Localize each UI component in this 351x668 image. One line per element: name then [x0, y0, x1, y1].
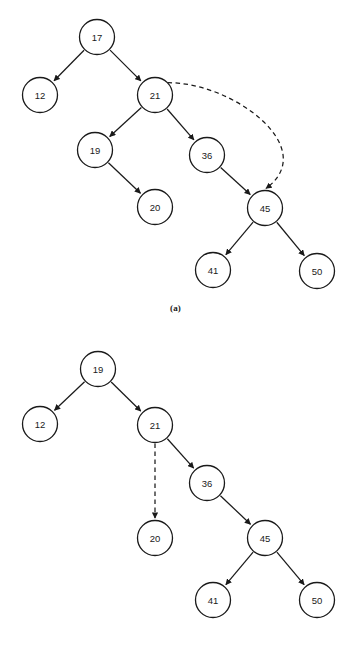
- tree-node-36[interactable]: 36: [190, 138, 225, 173]
- tree-node-19[interactable]: 19: [81, 352, 116, 387]
- tree-node-41[interactable]: 41: [196, 253, 231, 288]
- tree-node-label-19: 19: [90, 145, 101, 156]
- tree-node-19[interactable]: 19: [78, 133, 113, 168]
- tree-graph-a: 171221193620454150: [0, 0, 351, 334]
- tree-edge-solid-19-to-12: [55, 382, 85, 411]
- tree-node-label-50: 50: [312, 266, 323, 277]
- tree-node-label-50: 50: [312, 595, 323, 606]
- tree-node-21[interactable]: 21: [138, 408, 173, 443]
- panel-caption-a: (a): [0, 303, 351, 313]
- tree-node-12[interactable]: 12: [23, 78, 58, 113]
- tree-node-20[interactable]: 20: [138, 521, 173, 556]
- tree-edge-solid-17-to-21: [110, 50, 141, 81]
- tree-node-label-12: 12: [35, 90, 46, 101]
- tree-edge-solid-36-to-45: [221, 167, 251, 194]
- tree-edge-solid-21-to-36: [167, 109, 194, 140]
- tree-diagram-panel-a: 171221193620454150 (a): [0, 0, 351, 334]
- tree-node-label-21: 21: [150, 420, 161, 431]
- tree-node-50[interactable]: 50: [300, 254, 335, 289]
- tree-edge-solid-45-to-41: [226, 222, 253, 255]
- tree-edge-solid-17-to-12: [54, 50, 84, 81]
- tree-node-21[interactable]: 21: [138, 78, 173, 113]
- tree-edge-solid-21-to-19: [110, 108, 142, 137]
- tree-node-45[interactable]: 45: [248, 191, 283, 226]
- tree-edge-solid-45-to-41: [226, 552, 253, 585]
- tree-edge-solid-45-to-50: [277, 222, 304, 255]
- tree-node-12[interactable]: 12: [23, 407, 58, 442]
- tree-diagram-panel-b: 1912213620454150 (b): [0, 334, 351, 668]
- tree-graph-b: 1912213620454150: [0, 334, 351, 668]
- figure-root: 171221193620454150 (a) 1912213620454150 …: [0, 0, 351, 668]
- tree-node-50[interactable]: 50: [300, 583, 335, 618]
- tree-node-label-36: 36: [202, 150, 213, 161]
- tree-node-label-41: 41: [208, 265, 219, 276]
- tree-node-label-20: 20: [150, 202, 161, 213]
- tree-node-label-41: 41: [208, 595, 219, 606]
- tree-node-label-36: 36: [202, 478, 213, 489]
- tree-edge-solid-19-to-21: [111, 382, 141, 411]
- tree-node-17[interactable]: 17: [80, 20, 115, 55]
- tree-node-label-45: 45: [260, 203, 271, 214]
- tree-node-41[interactable]: 41: [196, 583, 231, 618]
- tree-node-label-19: 19: [93, 364, 104, 375]
- tree-node-label-45: 45: [260, 533, 271, 544]
- tree-edge-solid-45-to-50: [277, 552, 304, 585]
- tree-node-label-21: 21: [150, 90, 161, 101]
- tree-node-36[interactable]: 36: [190, 466, 225, 501]
- node-group-b: 1912213620454150: [23, 352, 335, 618]
- node-group-a: 171221193620454150: [23, 20, 335, 289]
- tree-edge-solid-19-to-20: [108, 163, 140, 193]
- tree-node-label-12: 12: [35, 419, 46, 430]
- tree-edge-solid-21-to-36: [167, 439, 193, 468]
- tree-node-label-17: 17: [92, 32, 103, 43]
- tree-node-45[interactable]: 45: [248, 521, 283, 556]
- tree-node-20[interactable]: 20: [138, 190, 173, 225]
- tree-node-label-20: 20: [150, 533, 161, 544]
- tree-edge-solid-36-to-45: [220, 496, 250, 525]
